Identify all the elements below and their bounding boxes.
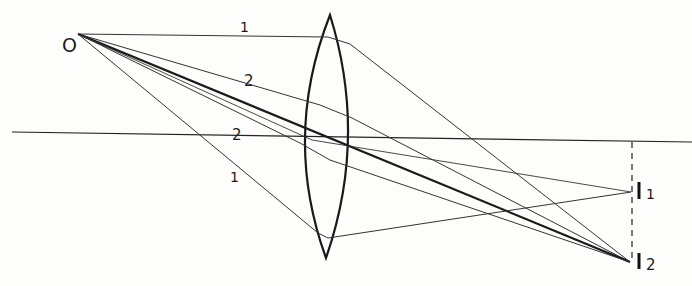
ray-label-bottom-1: 1: [230, 169, 239, 185]
image-1-subscript: 1: [646, 186, 655, 202]
chief-ray: [78, 34, 630, 262]
image-2-subscript: 2: [646, 256, 656, 274]
ray-label-top-2: 2: [244, 72, 254, 90]
ray-label-axis-2: 2: [232, 126, 242, 144]
ray-1-bottom: [78, 34, 631, 238]
ray-label-top-1: 1: [240, 19, 249, 35]
optical-axis: [12, 132, 692, 142]
lens-diagram: O 1 2 1 2 2 1: [0, 0, 692, 286]
object-label: O: [62, 34, 77, 56]
